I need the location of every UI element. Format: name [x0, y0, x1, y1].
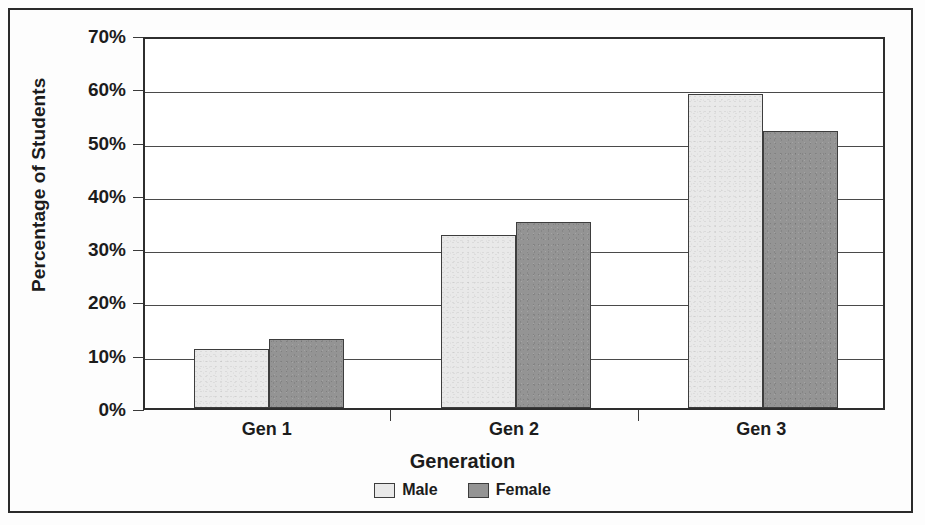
x-tick-label: Gen 2 — [424, 419, 604, 440]
y-tick-label: 70% — [52, 26, 126, 48]
x-tick-mark — [390, 410, 391, 421]
chart-legend: MaleFemale — [0, 481, 925, 499]
plot-area — [143, 37, 885, 410]
bar-male-gen-3 — [688, 94, 763, 408]
bar-female-gen-1 — [269, 339, 344, 408]
light-gray-swatch — [374, 483, 395, 498]
y-tick-label: 0% — [52, 399, 126, 421]
y-axis-title: Percentage of Students — [28, 92, 50, 292]
bar-female-gen-3 — [763, 131, 838, 408]
x-axis-title: Generation — [0, 450, 925, 473]
x-tick-mark — [638, 410, 639, 421]
legend-label: Female — [496, 481, 551, 499]
y-tick-label: 10% — [52, 346, 126, 368]
y-tick-label: 60% — [52, 79, 126, 101]
x-tick-label: Gen 1 — [177, 419, 357, 440]
bar-female-gen-2 — [516, 222, 591, 409]
legend-label: Male — [402, 481, 438, 499]
y-tick-label: 30% — [52, 239, 126, 261]
gridline — [145, 92, 883, 93]
y-tick-label: 40% — [52, 186, 126, 208]
bar-chart-figure: Percentage of Students 0%10%20%30%40%50%… — [0, 0, 925, 525]
bar-male-gen-2 — [441, 235, 516, 408]
legend-item-female: Female — [468, 481, 551, 499]
y-tick-label: 20% — [52, 292, 126, 314]
dark-gray-swatch — [468, 483, 489, 498]
legend-item-male: Male — [374, 481, 438, 499]
bar-male-gen-1 — [194, 349, 269, 408]
x-tick-label: Gen 3 — [671, 419, 851, 440]
y-tick-label: 50% — [52, 133, 126, 155]
y-tick-mark — [133, 410, 144, 411]
